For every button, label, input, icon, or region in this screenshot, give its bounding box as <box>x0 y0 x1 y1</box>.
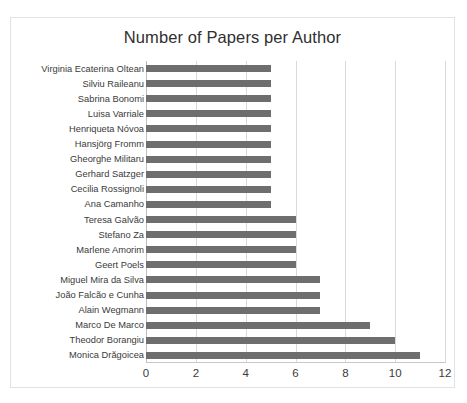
category-label: Geert Poels <box>19 260 144 270</box>
bar <box>146 201 271 208</box>
bar-row <box>146 216 445 223</box>
category-label: Miguel Mira da Silva <box>19 275 144 285</box>
bar-row <box>146 307 445 314</box>
bar-row <box>146 156 445 163</box>
bar-row <box>146 171 445 178</box>
bar <box>146 216 296 223</box>
category-label: Stefano Za <box>19 230 144 240</box>
category-label: João Falcão e Cunha <box>19 290 144 300</box>
category-label: Ana Camanho <box>19 199 144 209</box>
bar-row <box>146 201 445 208</box>
bar <box>146 80 271 87</box>
bar-row <box>146 110 445 117</box>
category-label: Alain Wegmann <box>19 305 144 315</box>
category-label: Luisa Varriale <box>19 109 144 119</box>
x-tick-label: 12 <box>439 367 452 379</box>
category-label: Silviu Raileanu <box>19 79 144 89</box>
bar <box>146 276 320 283</box>
bar <box>146 125 271 132</box>
bar <box>146 352 420 359</box>
bar-row <box>146 80 445 87</box>
bar-row <box>146 186 445 193</box>
category-label: Sabrina Bonomi <box>19 94 144 104</box>
bar <box>146 186 271 193</box>
category-label: Marco De Marco <box>19 320 144 330</box>
bar <box>146 307 320 314</box>
bar <box>146 141 271 148</box>
category-label: Gheorghe Militaru <box>19 154 144 164</box>
category-label: Monica Drăgoicea <box>19 350 144 360</box>
bar <box>146 261 296 268</box>
plot-area <box>146 61 445 363</box>
bar <box>146 65 271 72</box>
bar-row <box>146 231 445 238</box>
chart-container: Number of Papers per Author Virginia Eca… <box>10 17 455 388</box>
x-tick-label: 2 <box>193 367 199 379</box>
x-axis-tick-labels: 024681012 <box>146 367 445 387</box>
bar-series <box>146 61 445 363</box>
category-label: Cecilia Rossignoli <box>19 184 144 194</box>
category-label: Gerhard Satzger <box>19 169 144 179</box>
x-tick-label: 4 <box>242 367 248 379</box>
bar <box>146 95 271 102</box>
category-label: Marlene Amorim <box>19 245 144 255</box>
category-label: Hansjörg Fromm <box>19 139 144 149</box>
bar <box>146 110 271 117</box>
gridline <box>445 61 446 363</box>
bar <box>146 231 296 238</box>
category-label: Theodor Borangiu <box>19 335 144 345</box>
x-tick-label: 10 <box>389 367 402 379</box>
bar-row <box>146 292 445 299</box>
category-label: Teresa Galvão <box>19 215 144 225</box>
x-tick-label: 8 <box>342 367 348 379</box>
category-label: Virginia Ecaterina Oltean <box>19 64 144 74</box>
bar <box>146 156 271 163</box>
bar <box>146 292 320 299</box>
bar-row <box>146 246 445 253</box>
bar <box>146 171 271 178</box>
bar <box>146 322 370 329</box>
bar <box>146 337 395 344</box>
bar-row <box>146 352 445 359</box>
bar <box>146 246 296 253</box>
bar-row <box>146 95 445 102</box>
x-axis-line <box>146 362 445 363</box>
bar-row <box>146 125 445 132</box>
bar-row <box>146 276 445 283</box>
chart-title: Number of Papers per Author <box>11 28 454 47</box>
x-tick-label: 6 <box>292 367 298 379</box>
bar-row <box>146 261 445 268</box>
bar-row <box>146 65 445 72</box>
x-tick-label: 0 <box>143 367 149 379</box>
y-axis-category-labels: Virginia Ecaterina OlteanSilviu Raileanu… <box>19 61 144 363</box>
bar-row <box>146 141 445 148</box>
bar-row <box>146 337 445 344</box>
bar-row <box>146 322 445 329</box>
category-label: Henriqueta Nóvoa <box>19 124 144 134</box>
